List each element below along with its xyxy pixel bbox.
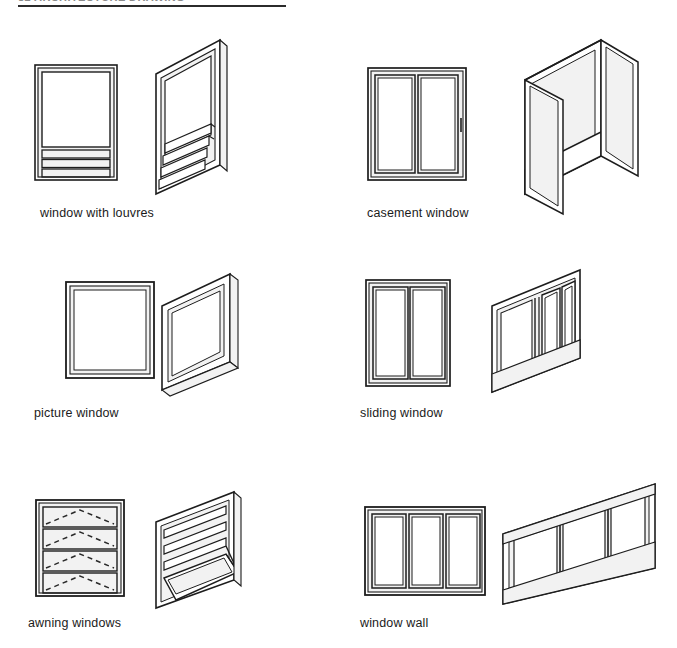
caption-casement-window: casement window [367, 206, 469, 220]
caption-window-wall: window wall [360, 616, 428, 630]
figure-picture-window: picture window [30, 272, 260, 432]
page-header-text: 82 ARCHITECTURE DRAWING [18, 0, 318, 3]
picture-window-elevation-drawing [62, 278, 162, 388]
casement-window-perspective-drawing [503, 28, 663, 208]
window-with-louvres-perspective-drawing [138, 32, 258, 207]
window-with-louvres-elevation-drawing [30, 60, 140, 190]
caption-awning-windows: awning windows [28, 616, 121, 630]
awning-windows-elevation-drawing [32, 496, 137, 601]
picture-window-perspective-drawing [152, 268, 272, 398]
sliding-window-elevation-drawing [362, 276, 462, 391]
caption-picture-window: picture window [34, 406, 119, 420]
header-rule [18, 5, 286, 7]
window-wall-elevation-drawing [362, 504, 492, 599]
figure-casement-window: casement window [363, 60, 663, 230]
window-wall-perspective-drawing [495, 482, 670, 612]
caption-sliding-window: sliding window [360, 406, 443, 420]
figure-window-wall: window wall [360, 498, 670, 648]
reference-page: 82 ARCHITECTURE DRAWING [0, 0, 677, 648]
awning-windows-perspective-drawing [146, 488, 271, 613]
casement-window-elevation-drawing [363, 60, 478, 190]
sliding-window-perspective-drawing [480, 264, 615, 399]
figure-window-with-louvres: window with louvres [30, 60, 260, 230]
figure-awning-windows: awning windows [28, 492, 268, 642]
figure-sliding-window: sliding window [360, 272, 660, 432]
caption-window-with-louvres: window with louvres [40, 206, 154, 220]
